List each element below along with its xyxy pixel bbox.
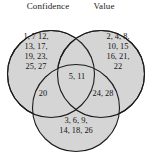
region-value-and-bottom: 24, 28	[82, 89, 124, 99]
region-confidence-only: 1, 7 12, 13, 17, 19, 23, 25, 27	[6, 32, 66, 72]
region-all-three: 5, 11	[56, 72, 98, 82]
region-confidence-and-bottom: 20	[29, 89, 57, 99]
region-bottom-only: 3, 6, 9, 14, 18, 26	[36, 116, 116, 136]
region-value-only: 2, 4, 8, 10, 15 16, 21, 22	[88, 32, 148, 72]
venn-circles-graphic	[0, 0, 152, 165]
venn-diagram-figure: Confidence Value 1, 7 12, 13, 17, 19, 23…	[0, 0, 152, 165]
